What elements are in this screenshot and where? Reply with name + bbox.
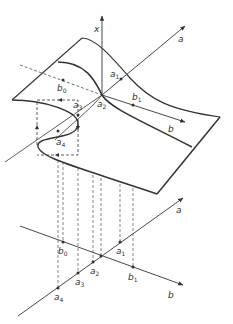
- plane-label-b1: b1: [128, 272, 138, 283]
- plane-point-a2: [92, 261, 95, 264]
- label-a1: a1: [110, 69, 120, 80]
- up-arrow-icon: [35, 125, 39, 129]
- b-axis-label-lower: b: [168, 290, 174, 300]
- plane-label-a2: a2: [90, 266, 100, 277]
- point-b0: [62, 79, 65, 82]
- x-axis-label: x: [93, 24, 100, 34]
- label-b1: b1: [132, 92, 142, 103]
- point-a3: [77, 114, 80, 117]
- point-a4: [57, 130, 60, 133]
- a-axis-label-lower: a: [176, 205, 182, 215]
- plane-point-a1: [119, 241, 122, 244]
- label-a4: a4: [56, 137, 66, 148]
- label-a3: a3: [73, 100, 83, 111]
- point-a1: [120, 78, 123, 81]
- plane-label-a3: a3: [75, 277, 85, 288]
- plane-point-b1: [132, 266, 135, 269]
- surface-left-fold: [12, 100, 157, 194]
- plane-point-b0: [62, 241, 65, 244]
- plane-point-a3: [77, 272, 80, 275]
- plane-label-a1: a1: [116, 246, 126, 257]
- label-b0: b0: [57, 83, 67, 94]
- label-a2: a2: [97, 99, 107, 110]
- plane-point-a4: [57, 287, 60, 290]
- cusp-catastrophe-diagram: x a b b0 a1 b1 a2 a3 a4 a b: [0, 0, 233, 324]
- surface-right-edge: [157, 117, 220, 194]
- right-arrow-icon: [58, 98, 62, 102]
- plane-label-a4: a4: [54, 292, 64, 303]
- b-axis-label-upper: b: [168, 124, 174, 134]
- plane-point-origin: [100, 255, 103, 258]
- a-axis-label-upper: a: [178, 34, 184, 44]
- a-axis-lower-segment: [5, 95, 102, 162]
- left-arrow-icon: [55, 153, 59, 157]
- point-b1: [132, 104, 135, 107]
- plane-label-b0: b0: [58, 246, 68, 257]
- b-axis-upper-arrow: [102, 95, 185, 122]
